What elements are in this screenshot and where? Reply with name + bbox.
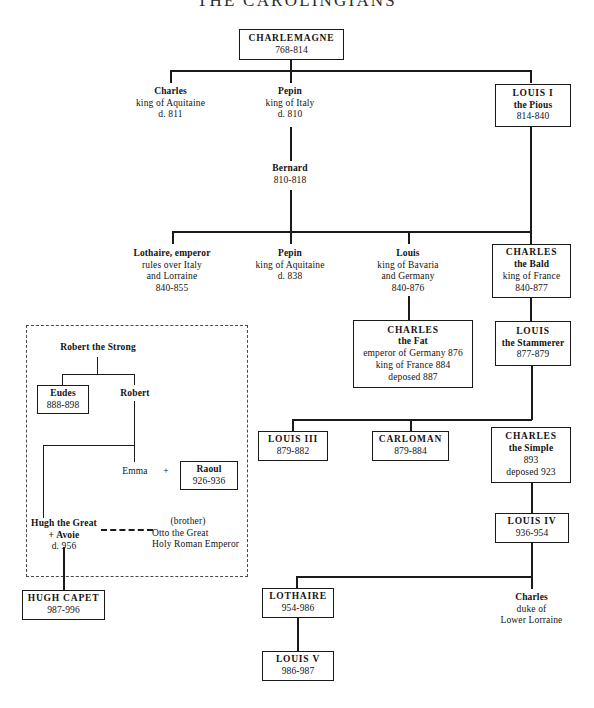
connector-hugh-great-to-hugh-capet bbox=[63, 547, 65, 590]
node-louis-i-name: LOUIS I bbox=[512, 88, 553, 100]
connector-robert-strong-drop-robert bbox=[134, 374, 135, 385]
node-charles-aquitaine: Charles king of Aquitaine d. 811 bbox=[110, 86, 231, 121]
node-hugh-great-name: Hugh the Great bbox=[18, 518, 110, 530]
node-emma-name: Emma bbox=[110, 466, 160, 478]
connector-louis-iv-stem bbox=[531, 543, 533, 577]
node-bernard-dates: 810-818 bbox=[250, 175, 330, 187]
node-louis-v: LOUIS V 986-987 bbox=[262, 651, 334, 681]
node-charles-bald-dates: 840-877 bbox=[515, 283, 548, 295]
connector-row4-drop-pepin bbox=[290, 231, 292, 244]
connector-row2-drop-charles bbox=[170, 70, 172, 83]
connector-row6-bar bbox=[292, 419, 532, 421]
node-otto-great: (brother) Otto the Great Holy Roman Empe… bbox=[152, 516, 256, 551]
node-carloman-dates: 879-884 bbox=[394, 446, 427, 458]
node-robert-strong-name: Robert the Strong bbox=[33, 342, 163, 354]
node-robert-strong: Robert the Strong bbox=[33, 342, 163, 354]
node-robert-name: Robert bbox=[108, 388, 162, 400]
node-charlemagne-name: CHARLEMAGNE bbox=[249, 33, 335, 45]
connector-row4-drop-charles-bald bbox=[530, 231, 532, 244]
node-charles-lorraine-role2: Lower Lorraine bbox=[474, 615, 589, 627]
node-louis-bavaria-role2: and Germany bbox=[351, 271, 465, 283]
node-charles-simple-dates: 893 bbox=[524, 455, 539, 467]
node-bernard: Bernard 810-818 bbox=[250, 163, 330, 186]
connector-lothaire-to-louis-v bbox=[297, 618, 299, 651]
node-charles-lorraine-role1: duke of bbox=[474, 604, 589, 616]
node-louis-i-epithet: the Pious bbox=[514, 100, 553, 112]
node-charles-aquitaine-role: king of Aquitaine bbox=[110, 98, 231, 110]
node-lothaire-emperor-role1: rules over Italy bbox=[112, 260, 232, 272]
connector-pepin-to-bernard bbox=[290, 127, 292, 161]
connector-robert-strong-stem bbox=[97, 357, 98, 375]
node-louis-v-dates: 986-987 bbox=[282, 666, 315, 678]
node-lothaire-dates: 954-986 bbox=[282, 603, 315, 615]
node-charles-aquitaine-dates: d. 811 bbox=[110, 109, 231, 121]
node-charles-fat-name: CHARLES bbox=[387, 325, 439, 337]
node-louis-i-dates: 814-840 bbox=[517, 111, 550, 123]
connector-charles-simple-to-louis-iv bbox=[531, 483, 533, 513]
node-eudes-dates: 888-898 bbox=[47, 400, 80, 412]
connector-robert-stem bbox=[134, 401, 135, 446]
connector-robert-strong-drop-eudes bbox=[62, 374, 63, 385]
marriage-plus-sign: + bbox=[159, 466, 173, 478]
node-charles-bald-name: CHARLES bbox=[506, 247, 558, 259]
node-pepin-aquitaine-name: Pepin bbox=[230, 248, 350, 260]
node-charles-bald-epithet: the Bald bbox=[514, 259, 549, 271]
node-lothaire-name: LOTHAIRE bbox=[269, 591, 327, 603]
connector-brother-dashed-link bbox=[101, 529, 153, 531]
connector-row4-drop-louis bbox=[408, 231, 410, 244]
node-louis-iii: LOUIS III 879-882 bbox=[258, 431, 328, 461]
node-carloman: CARLOMAN 879-884 bbox=[372, 431, 449, 461]
node-hugh-capet-dates: 987-996 bbox=[47, 605, 80, 617]
node-hugh-capet: HUGH CAPET 987-996 bbox=[22, 590, 105, 620]
connector-row8-drop-charles-lorraine bbox=[531, 576, 533, 589]
carolingian-genealogy-chart: THE CAROLINGIANS CHARLEMAGNE 768-814 Cha… bbox=[0, 0, 594, 708]
connector-louis-bavaria-to-charles-fat bbox=[408, 296, 410, 320]
node-pepin-aquitaine-dates: d. 838 bbox=[230, 271, 350, 283]
connector-row8-bar bbox=[296, 576, 532, 578]
node-charles-fat-role2: king of France 884 bbox=[376, 360, 451, 372]
node-charles-fat-role3: deposed 887 bbox=[388, 372, 437, 384]
node-lothaire: LOTHAIRE 954-986 bbox=[262, 588, 334, 618]
node-charles-bald-role: king of France bbox=[503, 271, 561, 283]
connector-row2-bar bbox=[170, 70, 531, 72]
node-lothaire-emperor-role2: and Lorraine bbox=[112, 271, 232, 283]
node-bernard-name: Bernard bbox=[250, 163, 330, 175]
node-louis-bavaria: Louis king of Bavaria and Germany 840-87… bbox=[351, 248, 465, 294]
node-louis-v-name: LOUIS V bbox=[276, 654, 320, 666]
node-charles-simple-note: deposed 923 bbox=[506, 467, 555, 479]
connector-robert-drop-hugh bbox=[43, 445, 44, 518]
node-pepin-italy-role: king of Italy bbox=[235, 98, 345, 110]
node-louis-iv-name: LOUIS IV bbox=[508, 516, 557, 528]
node-louis-stammerer-name: LOUIS bbox=[516, 326, 550, 338]
node-eudes-name: Eudes bbox=[50, 388, 76, 400]
node-eudes: Eudes 888-898 bbox=[37, 385, 89, 414]
node-charles-aquitaine-name: Charles bbox=[110, 86, 231, 98]
node-louis-bavaria-role1: king of Bavaria bbox=[351, 260, 465, 272]
node-otto-great-title: Holy Roman Emperor bbox=[152, 539, 256, 551]
node-lothaire-emperor: Lothaire, emperor rules over Italy and L… bbox=[112, 248, 232, 294]
connector-bernard-stem bbox=[290, 190, 292, 232]
connector-row2-drop-louis bbox=[530, 70, 532, 83]
node-otto-great-relation: (brother) bbox=[152, 516, 224, 528]
node-raoul-dates: 926-936 bbox=[193, 476, 226, 488]
node-charlemagne: CHARLEMAGNE 768-814 bbox=[239, 29, 344, 60]
connector-row2-drop-pepin bbox=[290, 70, 292, 83]
node-louis-iii-name: LOUIS III bbox=[268, 434, 318, 446]
node-louis-stammerer-epithet: the Stammerer bbox=[502, 338, 565, 350]
node-louis-iv-dates: 936-954 bbox=[516, 528, 549, 540]
node-robert: Robert bbox=[108, 388, 162, 400]
node-charles-simple-name: CHARLES bbox=[505, 431, 557, 443]
node-pepin-italy: Pepin king of Italy d. 810 bbox=[235, 86, 345, 121]
node-charles-simple-epithet: the Simple bbox=[509, 443, 554, 455]
node-louis-bavaria-name: Louis bbox=[351, 248, 465, 260]
marriage-plus-glyph: + bbox=[159, 466, 173, 478]
node-charles-fat-epithet: the Fat bbox=[398, 336, 428, 348]
node-pepin-aquitaine: Pepin king of Aquitaine d. 838 bbox=[230, 248, 350, 283]
node-carloman-name: CARLOMAN bbox=[379, 434, 442, 446]
node-hugh-great-spouse: + Avoie bbox=[18, 530, 110, 542]
node-raoul-name: Raoul bbox=[196, 464, 221, 476]
connector-robert-strong-bar bbox=[62, 374, 135, 375]
node-louis-iii-dates: 879-882 bbox=[277, 446, 310, 458]
connector-louis-i-stem bbox=[530, 127, 532, 232]
connector-robert-drop-emma bbox=[134, 445, 135, 462]
